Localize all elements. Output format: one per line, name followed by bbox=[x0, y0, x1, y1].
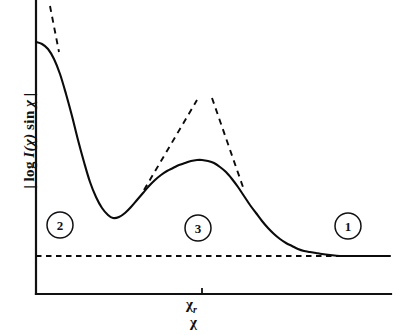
region-marker-label: 3 bbox=[195, 221, 202, 236]
y-label-argument: (χ) bbox=[21, 133, 37, 151]
y-label-open-bar: | bbox=[21, 185, 37, 189]
y-label-intensity-symbol: I bbox=[21, 151, 37, 157]
axes-group bbox=[36, 0, 391, 294]
plot-canvas: 231 bbox=[0, 0, 396, 335]
asymptote-rainbow-right bbox=[212, 98, 244, 190]
region-marker-2: 2 bbox=[47, 212, 73, 238]
y-label-sine: sin bbox=[21, 110, 37, 130]
figure-container: 231 | log I(χ) sin χ | χr χ bbox=[0, 0, 396, 335]
x-axis-label: χ bbox=[190, 314, 197, 331]
region-markers-group: 231 bbox=[47, 212, 361, 241]
asymptote-small-angle bbox=[50, 6, 59, 52]
region-marker-1: 1 bbox=[335, 213, 361, 239]
region-marker-label: 1 bbox=[345, 219, 352, 234]
region-marker-label: 2 bbox=[57, 218, 64, 233]
y-label-variable: χ bbox=[21, 100, 37, 107]
x-tick-label-base: χ bbox=[186, 296, 193, 312]
x-tick-label-chi-r: χr bbox=[186, 296, 197, 315]
y-label-log: log bbox=[21, 161, 37, 181]
y-label-close-bar: | bbox=[21, 92, 37, 96]
asymptote-rainbow-left bbox=[144, 100, 197, 190]
y-axis-label: | log I(χ) sin χ | bbox=[21, 66, 38, 216]
region-marker-3: 3 bbox=[185, 215, 211, 241]
